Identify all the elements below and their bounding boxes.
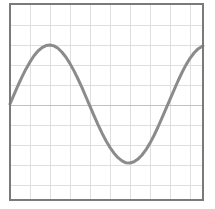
waveform-chart-figure	[0, 0, 215, 209]
waveform-chart	[0, 0, 215, 209]
plot-background	[10, 4, 203, 200]
